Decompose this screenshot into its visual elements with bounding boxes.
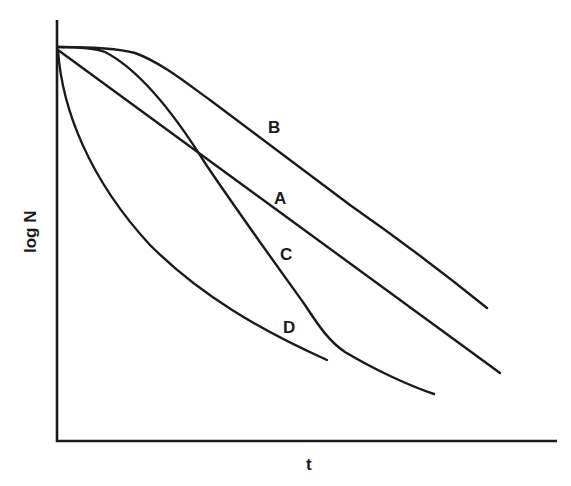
label-c: C [280, 245, 292, 264]
curve-c [58, 47, 434, 394]
y-axis-label: log N [21, 211, 40, 254]
x-axis-label: t [306, 455, 312, 474]
survival-curves-chart: B A C D t log N [0, 0, 571, 486]
curve-d [58, 50, 327, 360]
label-d: D [283, 318, 295, 337]
curve-b [58, 47, 487, 308]
label-b: B [268, 118, 280, 137]
curve-a [58, 50, 500, 373]
label-a: A [274, 189, 286, 208]
